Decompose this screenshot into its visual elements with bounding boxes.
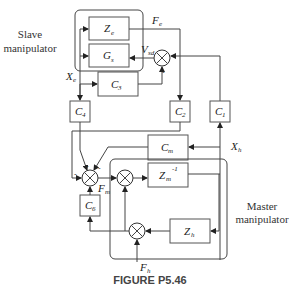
figure-caption: FIGURE P5.46 bbox=[113, 274, 186, 286]
svg-text:h: h bbox=[191, 231, 195, 239]
svg-text:Z: Z bbox=[159, 169, 166, 181]
sign-sum1-left: - bbox=[74, 169, 77, 178]
svg-text:h: h bbox=[238, 146, 242, 154]
svg-text:m: m bbox=[168, 147, 173, 155]
master-label-1: Master bbox=[247, 200, 278, 212]
svg-text:2: 2 bbox=[182, 111, 186, 119]
svg-text:F: F bbox=[139, 261, 147, 273]
block-gs: G s bbox=[89, 44, 129, 67]
svg-text:F: F bbox=[151, 14, 159, 26]
sum-junction-master-1 bbox=[82, 170, 98, 186]
sign-sum1-top-right: - bbox=[98, 163, 101, 172]
sum-junction-slave bbox=[154, 50, 170, 66]
svg-text:e: e bbox=[73, 76, 76, 84]
svg-text:e: e bbox=[159, 20, 162, 28]
sign-sum1-top-left: - bbox=[86, 161, 89, 170]
block-diagram: Slave manipulator Z e G s - F e V sd X e bbox=[0, 0, 299, 288]
master-label-2: manipulator bbox=[235, 213, 288, 225]
slave-label-2: manipulator bbox=[3, 42, 56, 54]
svg-text:Z: Z bbox=[184, 225, 191, 237]
svg-text:m: m bbox=[166, 175, 171, 183]
sum-junction-master-2 bbox=[117, 170, 133, 186]
svg-text:sd: sd bbox=[148, 49, 155, 57]
svg-text:s: s bbox=[111, 56, 114, 64]
block-cm: C m bbox=[148, 135, 188, 160]
svg-text:1: 1 bbox=[222, 111, 226, 119]
signal-vsd: V sd bbox=[141, 43, 155, 57]
block-zh: Z h bbox=[170, 219, 210, 243]
signal-xh: X h bbox=[230, 140, 242, 154]
svg-text:4: 4 bbox=[82, 111, 86, 119]
block-ze: Z e bbox=[89, 17, 129, 40]
svg-text:G: G bbox=[103, 49, 111, 61]
block-c3: C 3 bbox=[98, 72, 138, 96]
svg-text:-1: -1 bbox=[172, 165, 178, 173]
svg-text:m: m bbox=[105, 188, 110, 196]
signal-xe: X e bbox=[65, 70, 76, 84]
block-zm-inverse: Z m -1 bbox=[148, 163, 188, 187]
svg-text:e: e bbox=[111, 29, 114, 37]
sum-junction-master-3 bbox=[129, 223, 145, 239]
svg-text:3: 3 bbox=[117, 84, 122, 92]
signal-fm: F m bbox=[97, 182, 110, 196]
block-c6: C 6 bbox=[80, 195, 100, 216]
block-c1: C 1 bbox=[210, 101, 230, 122]
slave-label-1: Slave bbox=[18, 28, 43, 40]
signal-fe: F e bbox=[151, 14, 162, 28]
svg-text:F: F bbox=[97, 182, 105, 194]
signal-fh: F h bbox=[139, 261, 151, 275]
svg-text:Z: Z bbox=[104, 22, 111, 34]
svg-text:6: 6 bbox=[92, 205, 96, 213]
block-c2: C 2 bbox=[170, 101, 190, 122]
block-c4: C 4 bbox=[70, 101, 90, 122]
